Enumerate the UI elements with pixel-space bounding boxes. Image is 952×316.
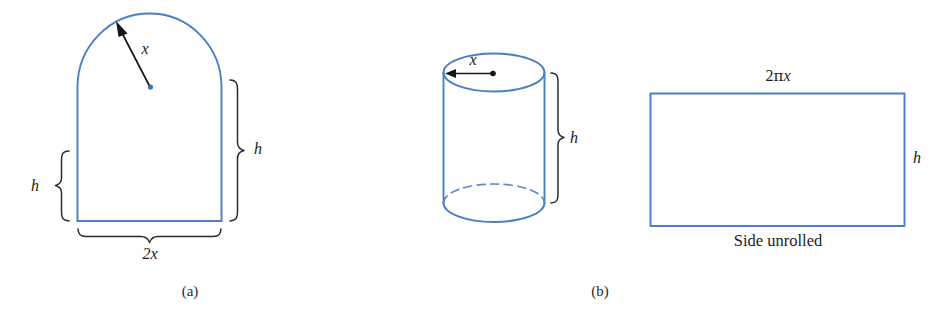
cylinder-bottom-hidden-arc [444,184,545,203]
cylinder-right-brace [551,73,564,203]
unrolled-height-label: h [913,150,921,166]
arch-radius-label: x [141,41,148,57]
cylinder-radius-label: x [469,52,476,68]
arch-right-brace [230,80,244,221]
cylinder-height-label: h [570,130,578,146]
cylinder-radius-arrow-head [445,69,456,78]
unrolled-width-coefficient: 2 [766,67,774,84]
panel-b-caption: (b) [591,284,609,299]
arch-height-label-right: h [254,141,262,157]
unrolled-width-variable: x [783,67,790,84]
arch-height-label-left: h [31,178,39,194]
unrolled-rectangle-group [651,94,905,227]
cylinder-radius-arrow-group [445,69,496,78]
arch-bottom-brace [78,229,221,243]
figure-container: x h h 2x (a) x h (b) 2πx h Side unrolled [0,0,952,316]
pi-symbol: π [774,67,784,85]
arch-outline [78,14,222,221]
cylinder-shape-group [444,54,545,223]
panel-a-caption: (a) [182,284,199,299]
arch-width-label: 2x [142,246,157,262]
arch-shape-group [78,14,222,221]
unrolled-side-caption: Side unrolled [734,233,822,250]
arch-left-brace [56,151,70,221]
unrolled-width-label: 2πx [766,68,791,84]
arch-radius-arrow-head [116,21,128,37]
unrolled-side-rectangle [651,94,905,227]
cylinder-bottom-front-arc [444,203,545,222]
